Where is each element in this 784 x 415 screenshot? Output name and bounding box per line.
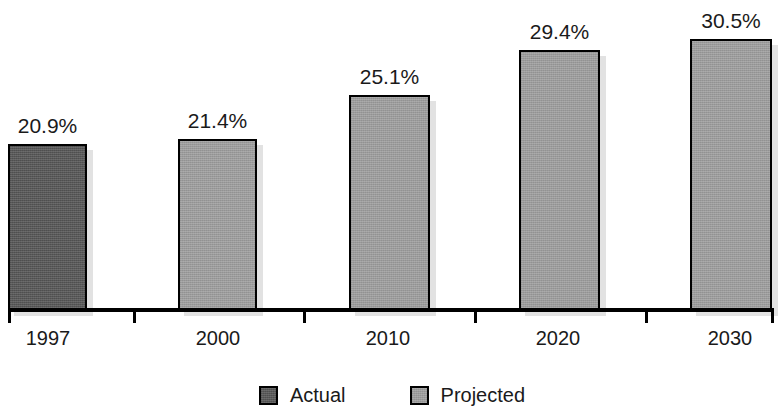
bar-value-label-2000: 21.4%	[188, 110, 248, 131]
bar-rect-2010	[349, 95, 430, 310]
bar-rect-2000	[178, 139, 257, 310]
legend-item-projected: Projected	[410, 385, 526, 405]
bar-rect-1997	[8, 144, 87, 310]
axis-tick	[645, 312, 648, 323]
legend-label-actual: Actual	[290, 385, 346, 405]
axis-tick	[474, 312, 477, 323]
axis-tick	[771, 312, 774, 323]
legend-swatch-actual-icon	[259, 386, 278, 405]
legend-swatch-projected-icon	[410, 386, 429, 405]
bar-value-label-2030: 30.5%	[701, 10, 761, 31]
bar-value-label-1997: 20.9%	[18, 115, 78, 136]
bar-value-label-2010: 25.1%	[360, 66, 420, 87]
chart-legend: ActualProjected	[0, 385, 784, 405]
tick-label-1997: 1997	[26, 328, 71, 348]
tick-label-2020: 2020	[536, 328, 581, 348]
tick-label-2000: 2000	[196, 328, 241, 348]
bar-1997: 20.9%	[8, 144, 87, 310]
bar-2020: 29.4%	[519, 50, 600, 310]
tick-label-2030: 2030	[708, 328, 753, 348]
bar-2000: 21.4%	[178, 139, 257, 310]
bar-rect-2030	[690, 39, 772, 310]
plot-area: 20.9%21.4%25.1%29.4%30.5%	[0, 0, 784, 310]
axis-tick	[133, 312, 136, 323]
bar-rect-2020	[519, 50, 600, 310]
axis-tick	[8, 312, 11, 323]
bar-chart: 20.9%21.4%25.1%29.4%30.5% 19972000201020…	[0, 0, 784, 415]
bar-2030: 30.5%	[690, 39, 772, 310]
tick-label-2010: 2010	[366, 328, 411, 348]
legend-label-projected: Projected	[441, 385, 526, 405]
bar-value-label-2020: 29.4%	[530, 21, 590, 42]
legend-item-actual: Actual	[259, 385, 346, 405]
bar-2010: 25.1%	[349, 95, 430, 310]
axis-tick	[303, 312, 306, 323]
